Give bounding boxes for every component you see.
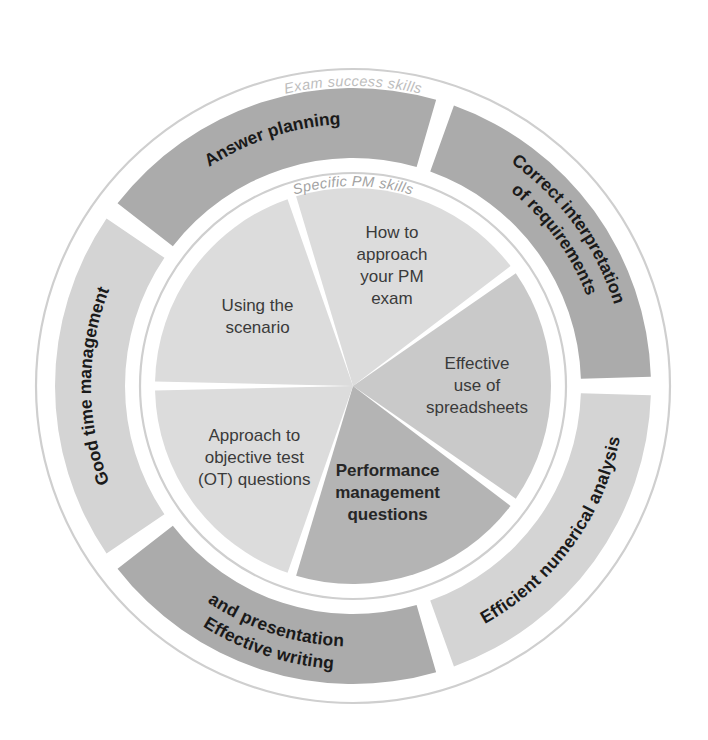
- outer-segment[interactable]: [55, 218, 164, 553]
- wheel-svg: Exam success skills Specific PM skills A…: [0, 0, 708, 740]
- inner-segment-label: Approach toobjective test(OT) questions: [198, 426, 310, 489]
- wheel-diagram: Exam success skills Specific PM skills A…: [0, 0, 708, 740]
- inner-segment-label: Performancemanagementquestions: [335, 461, 440, 524]
